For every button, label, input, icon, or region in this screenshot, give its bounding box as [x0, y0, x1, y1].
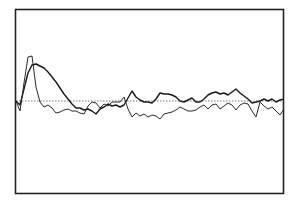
line-chart	[0, 0, 298, 205]
plot-frame	[16, 10, 284, 194]
